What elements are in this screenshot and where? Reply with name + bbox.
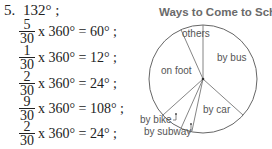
label-by-subway: by subway [144,126,191,137]
pie-center [202,78,205,81]
leader-dot [175,113,177,115]
pie-chart: others by bus on foot by car by bike by … [0,0,272,149]
label-others: others [182,28,210,39]
label-by-car: by car [203,104,231,115]
label-by-bus: by bus [217,52,246,63]
label-on-foot: on foot [161,65,192,76]
leader-dot [190,123,192,125]
label-by-bike: by bike [140,114,172,125]
